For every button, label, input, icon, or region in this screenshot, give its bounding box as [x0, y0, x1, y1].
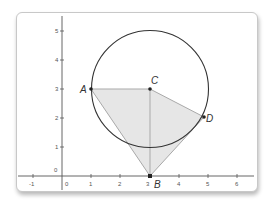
x-tick-labels: -1 0 1 2 3 4 5 6 [29, 181, 239, 187]
svg-text:2: 2 [55, 115, 59, 121]
y-tick-labels: 0 1 2 3 4 5 [54, 28, 59, 173]
label-a: A [79, 84, 87, 95]
svg-text:0: 0 [65, 181, 69, 187]
svg-text:2: 2 [118, 181, 122, 187]
coordinate-plane: -1 0 1 2 3 4 5 6 0 1 2 3 4 5 A C D B [0, 0, 269, 206]
svg-text:1: 1 [55, 144, 59, 150]
svg-text:-1: -1 [29, 181, 35, 187]
svg-text:5: 5 [55, 28, 59, 34]
label-b: B [154, 179, 161, 190]
svg-text:5: 5 [206, 181, 210, 187]
svg-text:1: 1 [89, 181, 93, 187]
svg-text:4: 4 [177, 181, 181, 187]
svg-text:6: 6 [235, 181, 239, 187]
label-d: D [206, 113, 213, 124]
svg-text:0: 0 [54, 167, 58, 173]
svg-text:4: 4 [55, 57, 59, 63]
svg-text:3: 3 [55, 86, 59, 92]
kite-polygon [91, 89, 204, 176]
label-c: C [151, 75, 159, 86]
point-c [148, 87, 152, 91]
point-b [148, 174, 152, 178]
point-a [89, 87, 93, 91]
svg-text:3: 3 [146, 181, 150, 187]
